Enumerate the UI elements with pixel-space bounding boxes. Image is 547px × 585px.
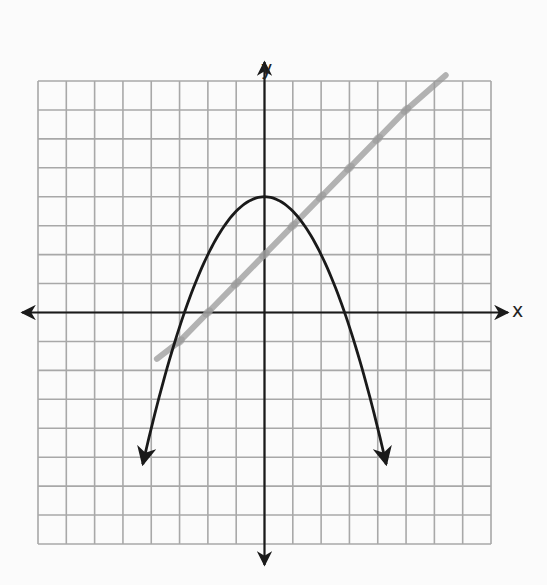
coordinate-graph <box>0 0 547 585</box>
y-axis-label: y <box>261 59 272 78</box>
x-axis-label: x <box>512 301 523 320</box>
pencil-line <box>157 75 446 359</box>
plotted-curves <box>143 75 446 464</box>
